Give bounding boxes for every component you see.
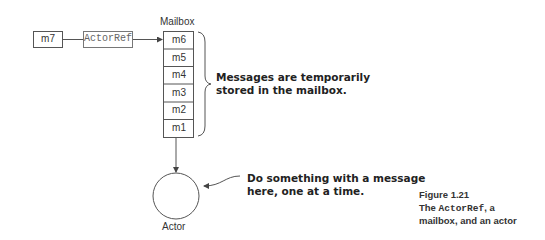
mailbox-message: m1 (164, 122, 194, 133)
caption-line2: mailbox, and an actor (419, 215, 517, 228)
figure-number: Figure 1.21 (419, 189, 517, 202)
mailbox-message: m2 (164, 104, 194, 115)
mailbox-message: m5 (164, 52, 194, 63)
actorref-label: ActorRef (83, 31, 133, 47)
mailbox-brace (198, 32, 211, 136)
caption-prefix: The (419, 202, 439, 213)
mailbox-annotation: Messages are temporarily stored in the m… (216, 71, 370, 97)
actor-annotation-line1: Do something with a message (247, 172, 425, 185)
actor-label: Actor (162, 221, 185, 232)
mailbox-annotation-line1: Messages are temporarily (216, 71, 370, 84)
mailbox-message: m6 (164, 34, 194, 45)
actor-note-arrow (204, 176, 240, 186)
actor-circle (153, 173, 199, 219)
figure-caption: Figure 1.21 The ActorRef, a mailbox, and… (419, 189, 517, 228)
caption-line1: The ActorRef, a (419, 202, 517, 216)
mailbox-title: Mailbox (160, 16, 194, 27)
mailbox-annotation-line2: stored in the mailbox. (216, 84, 370, 97)
actor-annotation-line2: here, one at a time. (247, 185, 425, 198)
mailbox-message: m3 (164, 87, 194, 98)
caption-code: ActorRef (439, 203, 485, 214)
caption-suffix: , a (484, 202, 495, 213)
actor-annotation: Do something with a message here, one at… (247, 172, 425, 198)
mailbox-message: m4 (164, 69, 194, 80)
m7-message: m7 (33, 31, 63, 47)
